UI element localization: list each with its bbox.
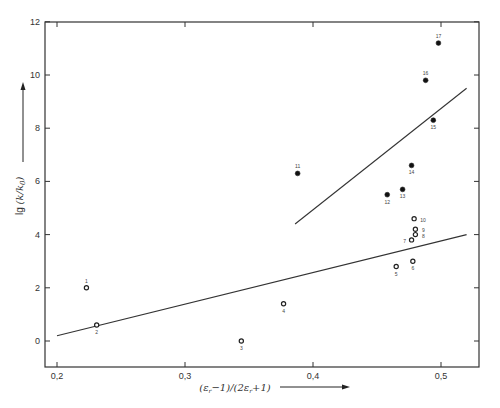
point-label: 11 [295, 163, 300, 169]
point-label: 14 [409, 169, 415, 175]
open-circle-marker [409, 238, 413, 242]
open-circle-marker [413, 227, 417, 231]
y-tick-label: 12 [30, 17, 40, 27]
point-label: 10 [420, 217, 426, 223]
y-axis-title: lg (k/k0) [14, 177, 27, 215]
fit-lines [57, 88, 467, 335]
y-tick-label: 4 [35, 230, 40, 240]
point-label: 12 [384, 199, 390, 205]
point-label: 16 [423, 70, 429, 76]
point-label: 1 [85, 278, 88, 284]
filled-circle-marker [385, 192, 390, 197]
plot-border [45, 22, 479, 367]
open-circle-marker [239, 339, 243, 343]
point-label: 15 [431, 124, 437, 130]
axis-titles: lg (k/k0)(εr−1)/(2εr+1) [14, 82, 350, 394]
filled-circle-marker [423, 78, 428, 83]
open-circle-marker [281, 302, 285, 306]
point-label: 17 [436, 33, 442, 39]
point-label: 5 [395, 271, 398, 277]
x-tick-label: 0,2 [51, 371, 64, 381]
arrow-right-icon [342, 385, 350, 390]
plot-frame [45, 22, 479, 367]
data-points: 1234567891011121314151617 [84, 33, 441, 351]
filled-circle-marker [409, 163, 414, 168]
filled-circle-marker [295, 171, 300, 176]
open-circle-marker [84, 286, 88, 290]
y-tick-label: 0 [35, 336, 40, 346]
arrow-up-icon [21, 82, 26, 90]
filled-circle-marker [400, 187, 405, 192]
regression-line [295, 88, 467, 224]
open-circle-marker [412, 217, 416, 221]
point-label: 8 [422, 233, 425, 239]
point-label: 4 [282, 308, 285, 314]
filled-circle-marker [431, 118, 436, 123]
open-circle-marker [413, 233, 417, 237]
point-label: 2 [95, 329, 98, 335]
open-circle-marker [95, 323, 99, 327]
y-tick-label: 6 [35, 176, 40, 186]
y-tick-label: 10 [30, 70, 40, 80]
point-label: 6 [411, 265, 414, 271]
x-tick-label: 0,3 [179, 371, 192, 381]
regression-line [57, 235, 467, 336]
y-tick-label: 8 [35, 123, 40, 133]
point-label: 9 [422, 227, 425, 233]
open-circle-marker [411, 259, 415, 263]
x-tick-label: 0,4 [307, 371, 320, 381]
x-tick-label: 0,5 [435, 371, 448, 381]
point-label: 7 [403, 238, 406, 244]
y-tick-label: 2 [35, 283, 40, 293]
filled-circle-marker [436, 41, 441, 46]
open-circle-marker [394, 264, 398, 268]
x-axis-title: (εr−1)/(2εr+1) [199, 382, 270, 394]
scatter-chart: 0246810120,20,30,40,5 123456789101112131… [0, 0, 500, 408]
point-label: 13 [400, 193, 406, 199]
point-label: 3 [240, 345, 243, 351]
